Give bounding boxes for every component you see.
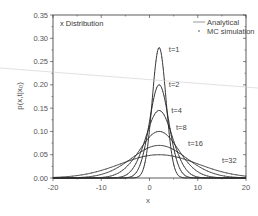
x-tick-label: -20 — [48, 183, 59, 192]
x-tick-label: 20 — [242, 183, 250, 192]
y-tick-label: 0.15 — [33, 104, 48, 113]
legend: Analytical MC simulation — [193, 18, 255, 36]
x-tick-label: -10 — [96, 183, 107, 192]
y-tick-label: 0.10 — [33, 127, 48, 136]
analytical-curve-t1 — [53, 48, 246, 178]
mc-simulation-dots — [53, 47, 247, 178]
x-axis-ticks: -20-1001020 — [48, 15, 251, 192]
curve-label-t8: t=8 — [176, 123, 187, 132]
curve-annotations: t=1t=2t=4t=8t=16t=32 — [169, 45, 237, 164]
distribution-chart: 0.000.050.100.150.200.250.300.35 -20-100… — [0, 0, 258, 216]
analytical-curve-t8 — [53, 131, 246, 178]
curves-group — [53, 48, 246, 178]
y-tick-label: 0.05 — [33, 150, 48, 159]
y-tick-label: 0.20 — [33, 80, 48, 89]
y-tick-label: 0.35 — [33, 11, 48, 20]
curve-label-t16: t=16 — [188, 139, 203, 148]
x-tick-label: 10 — [194, 183, 202, 192]
analytical-curve-t16 — [53, 145, 246, 178]
y-axis-ticks: 0.000.050.100.150.200.250.300.35 — [33, 11, 246, 183]
y-tick-label: 0.00 — [33, 174, 48, 183]
y-tick-label: 0.30 — [33, 34, 48, 43]
x-axis-title: x — [146, 196, 150, 205]
curve-label-t1: t=1 — [169, 45, 180, 54]
y-tick-label: 0.25 — [33, 57, 48, 66]
plot-title: x Distribution — [60, 19, 103, 28]
curve-label-t32: t=32 — [222, 156, 237, 165]
y-axis-title: p(x,t|x₀) — [15, 82, 24, 110]
legend-analytical-label: Analytical — [207, 18, 239, 27]
x-tick-label: 0 — [147, 183, 151, 192]
legend-mc-dot-icon — [198, 30, 200, 32]
curve-label-t4: t=4 — [171, 106, 182, 115]
legend-mc-label: MC simulation — [207, 27, 255, 36]
plot-frame — [53, 15, 246, 178]
